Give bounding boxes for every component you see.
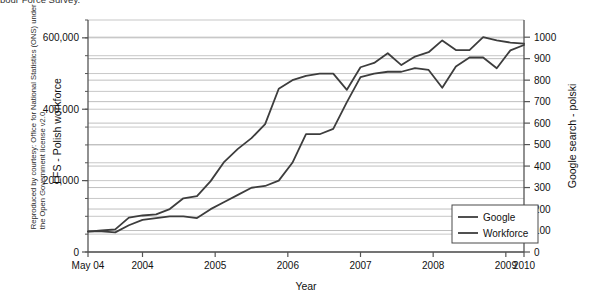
left-tick-label: 200,000 [43, 175, 80, 186]
chart-page: bour Force Survey. Reproduced by courtes… [0, 0, 592, 296]
x-tick-label: 2008 [422, 260, 445, 271]
left-tick-label: 400,000 [43, 104, 80, 115]
x-tick-labels-group: May 042004200520062007200820092010 [72, 260, 536, 271]
right-tick-label: 0 [534, 247, 540, 258]
right-tick-label: 1000 [534, 32, 557, 43]
left-tick-labels-group: 0200,000400,000600,000 [43, 32, 80, 257]
series-lines-group [88, 37, 524, 232]
plot-container: 0200,000400,000600,000 01002003004005006… [0, 0, 592, 296]
right-tick-label: 500 [534, 139, 551, 150]
left-tick-label: 0 [73, 247, 79, 258]
line-chart-svg: 0200,000400,000600,000 01002003004005006… [0, 0, 592, 296]
right-tick-label: 300 [534, 182, 551, 193]
legend-label[interactable]: Workforce [483, 228, 529, 239]
x-ticks-group [88, 252, 524, 257]
x-tick-label: 2007 [349, 260, 372, 271]
left-tick-label: 600,000 [43, 32, 80, 43]
legend[interactable]: GoogleWorkforce [452, 205, 538, 243]
x-tick-label: 2005 [204, 260, 227, 271]
x-tick-label: 2006 [277, 260, 300, 271]
right-tick-label: 600 [534, 118, 551, 129]
right-tick-label: 800 [534, 75, 551, 86]
right-tick-label: 700 [534, 96, 551, 107]
right-tick-label: 900 [534, 53, 551, 64]
x-axis-title: Year [295, 280, 317, 292]
x-tick-label: 2004 [131, 260, 154, 271]
x-tick-label: 2010 [513, 260, 536, 271]
x-tick-label: May 04 [72, 260, 105, 271]
right-tick-label: 400 [534, 161, 551, 172]
legend-label[interactable]: Google [483, 212, 516, 223]
